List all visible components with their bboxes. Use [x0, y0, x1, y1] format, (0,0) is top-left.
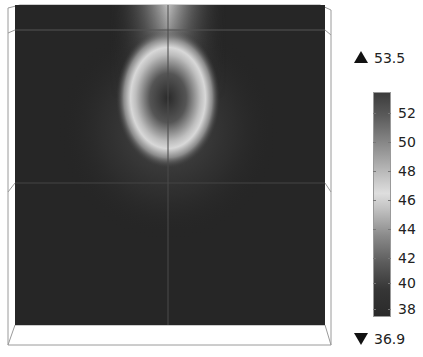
min-value-label: 36.9	[354, 331, 405, 347]
tick-label: 48	[398, 163, 416, 179]
triangle-up-icon	[354, 51, 368, 63]
tick-label: 42	[398, 250, 416, 266]
tick-label: 38	[398, 301, 416, 317]
vertical-slice	[15, 5, 325, 325]
triangle-down-icon	[354, 333, 368, 345]
max-value-label: 53.5	[354, 50, 405, 66]
tick-label: 46	[398, 192, 416, 208]
tick-label: 52	[398, 105, 416, 121]
tick-label: 44	[398, 221, 416, 237]
slice-plot	[0, 0, 340, 357]
tick-label: 40	[398, 275, 416, 291]
tick-label: 50	[398, 134, 416, 150]
color-legend: 53.5 52 50 48 46 44 42 40 38 36.9	[340, 0, 423, 357]
